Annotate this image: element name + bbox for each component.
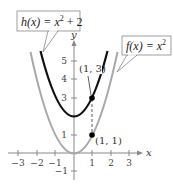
h-callout-text: h(x) = x2 + 2 [21,14,83,29]
x-axis: −3 −2 −1 1 2 3 x [8,147,152,168]
x-axis-arrow-icon [137,151,143,156]
point-1-3 [89,95,95,101]
point-1-1 [89,132,95,138]
f-callout: f(x) = x2 [117,36,171,72]
x-tick-label: 3 [126,158,132,168]
x-axis-label: x [146,147,152,158]
y-axis-arrow-icon [72,40,77,46]
point-1-3-label: (1, 3) [79,63,106,74]
x-tick-label: −2 [30,158,43,168]
y-tick-label: 3 [61,93,67,103]
y-tick-label: 1 [61,130,67,140]
graph: −3 −2 −1 1 2 3 x 5 4 3 1 −1 y (1, 3) (1,… [0,0,173,185]
y-tick-label: 5 [61,56,67,66]
y-tick-label: −1 [55,166,68,176]
point-1-3-leader [88,76,91,95]
point-1-1-label: (1, 1) [95,135,122,146]
x-tick-label: 1 [89,158,95,168]
x-tick-label: 2 [108,158,114,168]
x-tick-label: −3 [11,158,25,168]
y-tick-label: 4 [61,74,67,84]
f-callout-text: f(x) = x2 [126,38,166,53]
